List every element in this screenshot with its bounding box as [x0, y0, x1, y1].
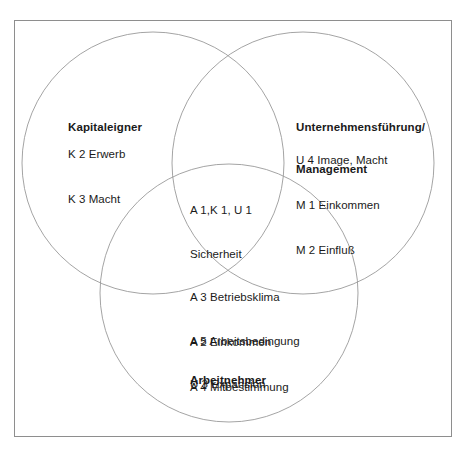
list-item: K 2 Erwerb	[68, 147, 125, 162]
list-item: A 3 Betriebsklima	[190, 290, 300, 305]
group-title-arbeitnehmer-line1: Arbeitnehmer	[190, 373, 266, 387]
list-item: U 4 Image, Macht	[296, 153, 388, 168]
group-items-unternehmensfuehrung-management: U 4 Image, Macht M 1 Einkommen M 2 Einfl…	[296, 123, 388, 288]
venn-diagram-figure: Kapitaleigner K 2 Erwerb K 3 Macht Unter…	[0, 0, 466, 456]
list-item: A 1,K 1, U 1	[190, 203, 300, 218]
list-item: M 1 Einkommen	[296, 198, 388, 213]
list-item: K 3 Macht	[68, 192, 125, 207]
group-title-arbeitnehmer: Arbeitnehmer	[190, 345, 266, 415]
list-item: M 2 Einfluß	[296, 243, 388, 258]
group-items-kapitaleigner: K 2 Erwerb K 3 Macht	[68, 117, 125, 237]
list-item: Sicherheit	[190, 247, 300, 262]
